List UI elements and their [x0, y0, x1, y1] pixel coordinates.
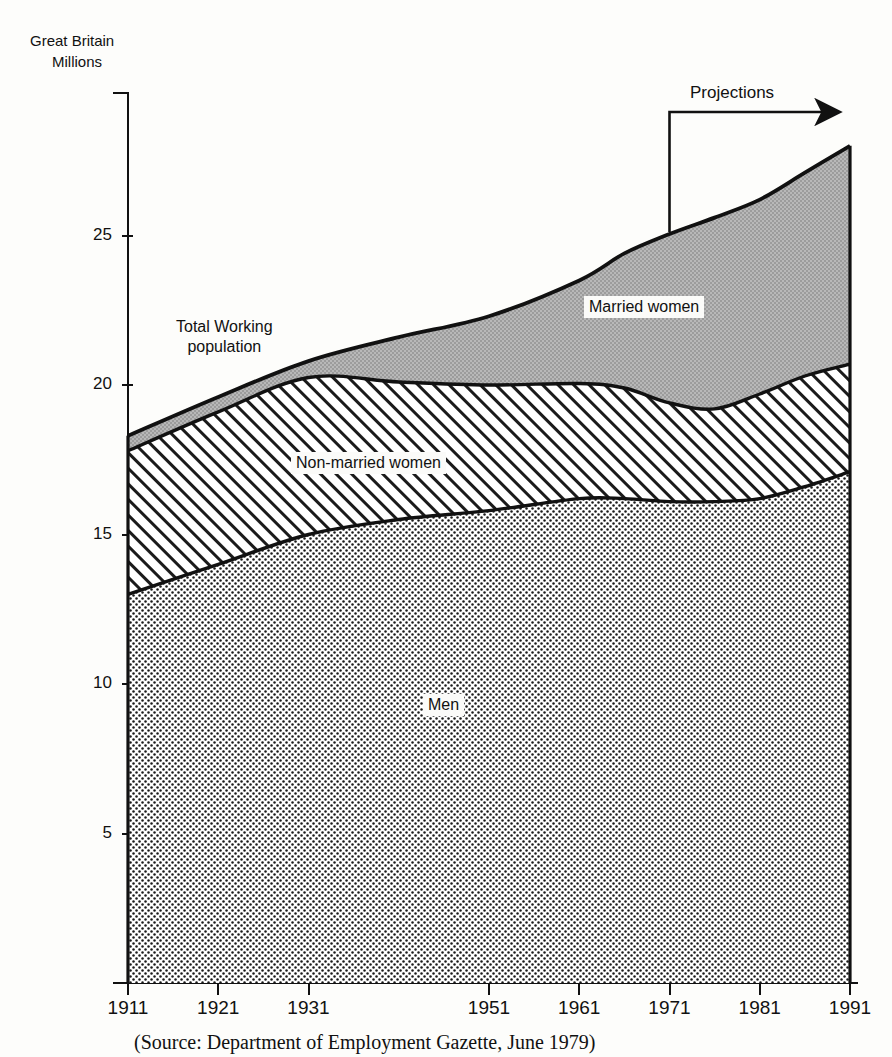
projections-label: Projections — [690, 83, 774, 103]
source-caption: (Source: Department of Employment Gazett… — [134, 1031, 596, 1054]
series-label-men: Men — [423, 694, 464, 716]
series-label-married-women: Married women — [584, 296, 704, 318]
series-label-non-married-women: Non-married women — [291, 452, 446, 474]
series-label-total-working-population: Total Working population — [176, 317, 273, 357]
working-population-chart: Great Britain Millions 510152025 1911192… — [0, 0, 892, 1057]
plot-area — [0, 0, 892, 1057]
